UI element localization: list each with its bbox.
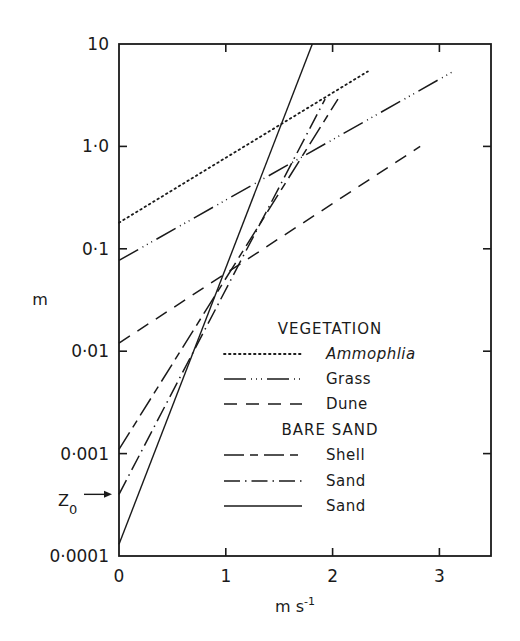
legend-label: Dune — [326, 395, 368, 413]
x-tick-label: 1 — [220, 566, 231, 586]
roughness-chart: 01230·00010·0010·010·11·010 VEGETATIONAm… — [0, 0, 520, 641]
y-tick-label: 0·001 — [60, 444, 109, 464]
y-tick-label: 0·1 — [82, 239, 109, 259]
x-tick-label: 3 — [434, 566, 445, 586]
y-tick-label: 1·0 — [82, 136, 109, 156]
legend: VEGETATIONAmmophliaGrassDuneBARE SANDShe… — [224, 320, 416, 515]
series-ammophlia-dotted — [119, 71, 368, 222]
plot-frame — [119, 44, 491, 556]
series-shell-long-short-dash — [119, 99, 338, 449]
plot-border — [119, 44, 491, 556]
legend-label: Ammophlia — [325, 345, 416, 363]
legend-header: VEGETATION — [278, 320, 383, 338]
y-tick-label: 10 — [87, 34, 109, 54]
legend-label: Grass — [326, 370, 371, 388]
legend-label: Shell — [326, 446, 365, 464]
data-series — [119, 44, 453, 544]
x-tick-label: 2 — [327, 566, 338, 586]
y-axis-label: m — [32, 290, 48, 309]
legend-label: Sand — [326, 472, 366, 490]
legend-label: Sand — [326, 497, 366, 515]
series-sand-solid — [119, 44, 312, 544]
z0-annotation: Z0 — [58, 491, 77, 517]
x-tick-label: 0 — [114, 566, 125, 586]
axis-ticks: 01230·00010·0010·010·11·010 — [50, 34, 491, 586]
y-tick-label: 0·0001 — [50, 546, 109, 566]
z0-arrowhead-icon — [104, 491, 112, 498]
series-grass-dash-dot-dot — [119, 71, 453, 260]
x-axis-label: m s-1 — [275, 595, 315, 616]
y-tick-label: 0·01 — [71, 341, 109, 361]
legend-header: BARE SAND — [281, 421, 378, 439]
